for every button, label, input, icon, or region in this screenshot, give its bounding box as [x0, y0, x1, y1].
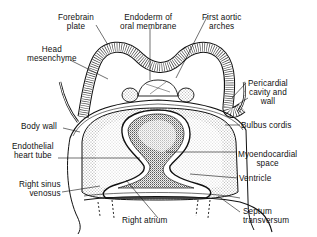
right-aortic-arch — [178, 88, 194, 102]
label-first-aortic-arches: First aorticarches — [202, 13, 241, 31]
label-right-sinus-venosus: Right sinusvenosus — [19, 180, 61, 198]
body-wall-left — [68, 138, 81, 234]
label-myoendocardial-space: Myoendocardialspace — [238, 150, 297, 168]
label-right-atrium: Right atrium — [122, 216, 167, 225]
left-neural-fold — [60, 82, 78, 122]
left-aortic-arch — [122, 88, 138, 102]
label-bulbus-cordis: Bulbus cordis — [241, 121, 291, 130]
label-endothelial-heart-tube: Endothelialheart tube — [12, 142, 54, 160]
label-head-mesenchyme: Headmesenchyme — [27, 45, 77, 63]
label-ventricle: Ventricle — [239, 174, 271, 183]
label-body-wall: Body wall — [21, 122, 57, 131]
label-pericardial-cavity-wall: Pericardialcavity andwall — [248, 79, 288, 106]
label-forebrain-plate: Forebrainplate — [58, 13, 94, 31]
label-endoderm-oral-membrane: Endoderm oforal membrane — [120, 13, 176, 31]
label-septum-transversum: Septumtransversum — [243, 207, 289, 225]
embryo-heart-diagram — [0, 0, 317, 237]
